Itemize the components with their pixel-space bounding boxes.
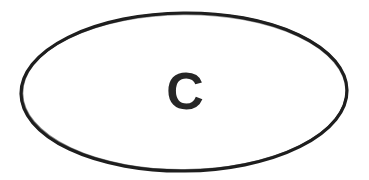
- ellipse-label-text: C: [166, 62, 204, 120]
- drawing-canvas: C: [0, 0, 369, 180]
- figure-ellipse-with-label: C: [0, 0, 369, 180]
